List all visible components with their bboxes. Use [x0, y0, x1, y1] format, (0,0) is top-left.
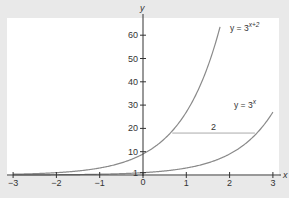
- x-tick-label: −3: [8, 178, 18, 188]
- shift-label: 2: [211, 122, 216, 132]
- y-tick-label: 40: [128, 77, 138, 87]
- x-tick-label: −2: [51, 178, 61, 188]
- x-tick-label: 0: [140, 177, 145, 187]
- x-tick-label: 3: [270, 178, 275, 188]
- x-tick-label: 1: [184, 178, 189, 188]
- y-tick-label: 10: [128, 147, 138, 157]
- x-tick-label: 2: [227, 178, 232, 188]
- exponential-chart: 2 −3−2−101231102030405060xyy = 3x+2y = 3…: [0, 0, 289, 198]
- y-tick-label: 30: [128, 100, 138, 110]
- x-tick-label: −1: [95, 178, 105, 188]
- x-axis-label: x: [282, 170, 288, 180]
- y-tick-label: 60: [128, 30, 138, 40]
- y-tick-label: 50: [128, 54, 138, 64]
- y-tick-label: 20: [128, 123, 138, 133]
- y-axis-label: y: [139, 3, 145, 13]
- y-tick-label: 1: [133, 168, 138, 178]
